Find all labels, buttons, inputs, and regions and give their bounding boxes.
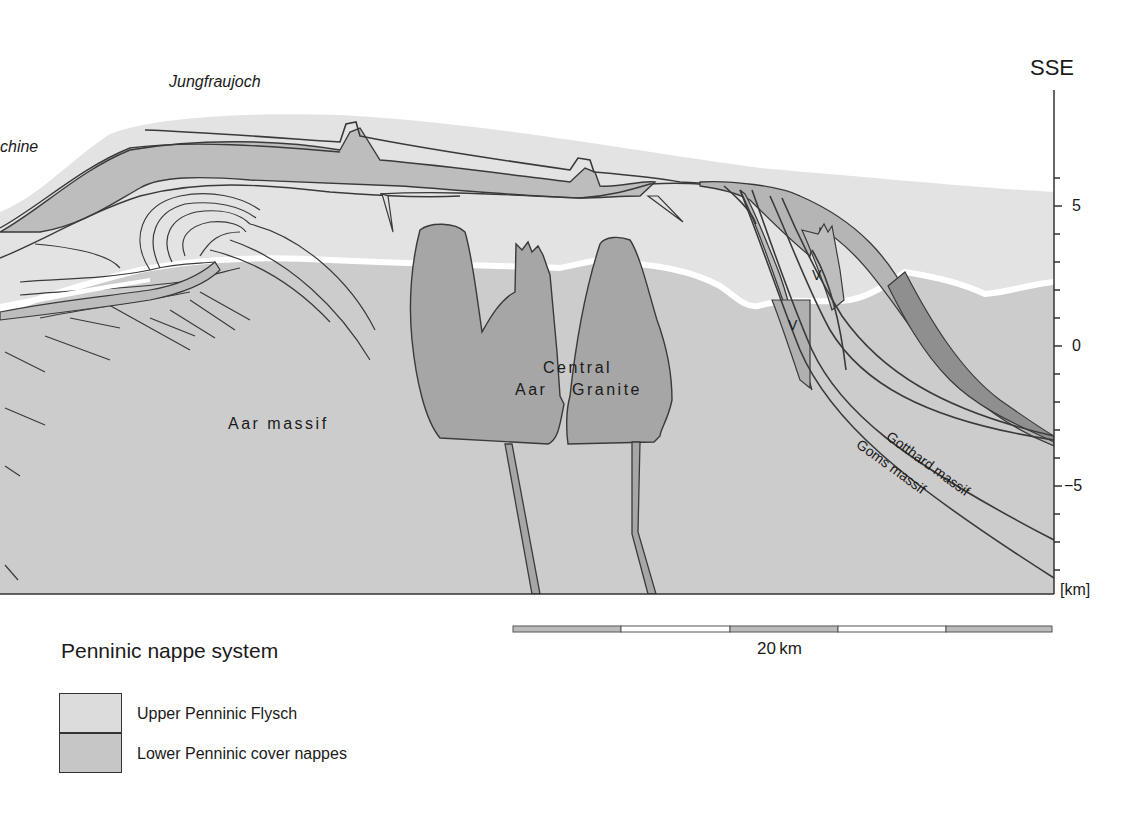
tick-label-5: 5 <box>1072 197 1081 215</box>
cross-section-svg <box>0 0 1146 828</box>
legend-label-lower-penninic-cover: Lower Penninic cover nappes <box>137 745 347 763</box>
place-label-jungfraujoch: Jungfraujoch <box>169 73 261 91</box>
vertical-axis <box>1054 90 1062 594</box>
axis-unit-km: [km] <box>1060 581 1090 599</box>
label-v-upper: V <box>812 267 821 283</box>
label-granite: Granite <box>572 381 642 399</box>
label-aar: Aar <box>515 381 547 399</box>
label-aar-massif: Aar massif <box>228 415 329 433</box>
legend-label-upper-penninic-flysch: Upper Penninic Flysch <box>137 705 297 723</box>
label-central: Central <box>543 359 612 377</box>
orientation-label-sse: SSE <box>1030 55 1074 81</box>
tick-label-minus-5: −5 <box>1064 477 1082 495</box>
legend-swatch-upper-penninic-flysch <box>59 693 122 733</box>
cross-section-figure: chine Jungfraujoch Aar massif Central Aa… <box>0 0 1146 828</box>
place-label-cut: chine <box>0 138 38 156</box>
scale-bar <box>513 626 1052 632</box>
scale-bar-label: 20 km <box>757 639 802 659</box>
label-v-lower: V <box>788 317 797 333</box>
tick-label-0: 0 <box>1072 337 1081 355</box>
legend-swatch-lower-penninic-cover <box>59 733 122 773</box>
legend-title: Penninic nappe system <box>61 639 278 663</box>
